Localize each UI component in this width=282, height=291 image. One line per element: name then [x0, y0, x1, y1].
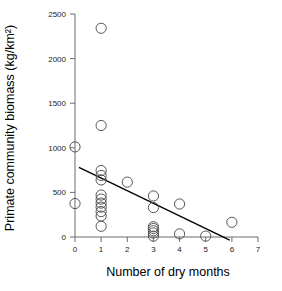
- data-point: [148, 191, 158, 201]
- x-tick-label-0: 0: [73, 245, 78, 254]
- chart-figure: 0 500 1000 1500 2000 2500 0 1 2 3 4 5 6 …: [0, 0, 282, 291]
- y-tick-label-1500: 1500: [48, 99, 66, 108]
- data-points-group: [70, 23, 237, 241]
- x-tick-label-5: 5: [203, 245, 208, 254]
- x-tick-label-2: 2: [125, 245, 130, 254]
- x-tick-label-6: 6: [230, 245, 235, 254]
- y-tick-label-1000: 1000: [48, 144, 66, 153]
- data-point: [122, 177, 132, 187]
- data-point: [96, 23, 106, 33]
- y-tick-label-500: 500: [53, 188, 67, 197]
- data-point: [96, 221, 106, 231]
- y-axis-title: Primate community biomass (kg/km²): [3, 25, 17, 231]
- y-tick-label-0: 0: [62, 233, 67, 242]
- x-tick-label-4: 4: [177, 245, 182, 254]
- x-axis-title: Number of dry months: [106, 265, 230, 279]
- data-point: [174, 199, 184, 209]
- data-point: [227, 217, 237, 227]
- x-tick-label-3: 3: [151, 245, 156, 254]
- y-tick-label-2500: 2500: [48, 10, 66, 19]
- x-axis-ticks: 0 1 2 3 4 5 6 7: [73, 237, 261, 254]
- scatter-plot: 0 500 1000 1500 2000 2500 0 1 2 3 4 5 6 …: [0, 0, 282, 291]
- x-tick-label-7: 7: [256, 245, 261, 254]
- y-tick-label-2000: 2000: [48, 55, 66, 64]
- data-point: [96, 120, 106, 130]
- x-tick-label-1: 1: [99, 245, 104, 254]
